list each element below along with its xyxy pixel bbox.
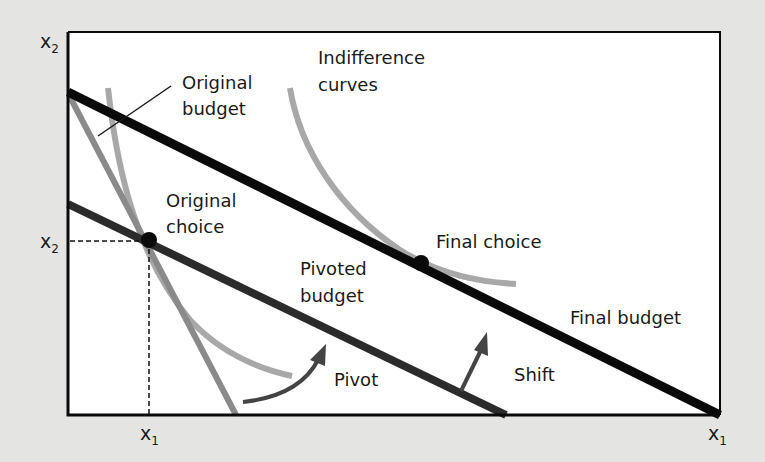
final-choice-label: Final choice (436, 231, 542, 252)
original-choice-point (141, 232, 157, 248)
pivoted-budget-label-2: budget (300, 285, 364, 306)
y-axis-label: x2 (40, 30, 59, 56)
pivoted-budget-label-1: Pivoted (300, 258, 367, 279)
diagram: x2 x2 x1 x1 Original budget Indifference… (0, 0, 765, 462)
indifference-curves-label-1: Indifference (318, 47, 425, 68)
final-budget-label: Final budget (570, 307, 681, 328)
x-tick-label: x1 (140, 422, 159, 448)
shift-label: Shift (514, 364, 555, 385)
budget-diagram-svg: x2 x2 x1 x1 Original budget Indifference… (0, 0, 765, 462)
original-budget-label-2: budget (182, 98, 246, 119)
y-tick-label: x2 (40, 230, 59, 256)
original-choice-label-1: Original (166, 190, 236, 211)
original-choice-label-2: choice (166, 216, 224, 237)
indifference-curves-label-2: curves (318, 74, 378, 95)
x-axis-label: x1 (708, 422, 727, 448)
pivot-label: Pivot (334, 369, 378, 390)
final-choice-point (413, 255, 429, 271)
original-budget-label-1: Original (182, 72, 252, 93)
